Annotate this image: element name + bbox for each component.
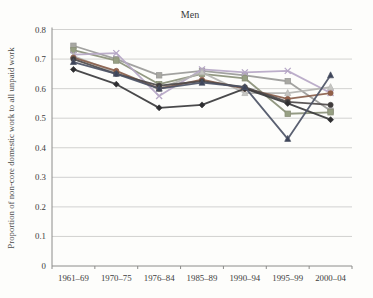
- data-point-square: [156, 73, 161, 78]
- x-tick-label: 1990–94: [229, 273, 260, 283]
- y-tick-labels: 00.10.20.30.40.50.60.70.8: [35, 25, 47, 272]
- data-point-diamond: [328, 117, 334, 123]
- y-tick-label: 0.1: [35, 231, 46, 241]
- x-tick-label: 1985–89: [187, 273, 218, 283]
- x-tick-label: 2000–04: [315, 273, 346, 283]
- y-tick-label: 0.7: [35, 54, 47, 64]
- y-tick-label: 0.2: [35, 202, 46, 212]
- chart-title: Men: [181, 9, 199, 20]
- x-tick-label: 1995–99: [272, 273, 303, 283]
- y-tick-label: 0.8: [35, 25, 47, 35]
- data-point-square: [285, 79, 290, 84]
- y-tick-label: 0.4: [35, 143, 47, 153]
- data-point-x: [156, 93, 162, 99]
- y-tick-label: 0.6: [35, 84, 47, 94]
- y-tick-label: 0: [42, 261, 47, 271]
- x-tick-label: 1970–75: [101, 273, 132, 283]
- x-tick-labels: 1961–691970–751976–841985–891990–941995–…: [58, 273, 347, 283]
- x-tick-label: 1976–84: [144, 273, 175, 283]
- data-point-square: [285, 111, 290, 116]
- data-point-triangle: [328, 72, 334, 78]
- data-series: [70, 43, 333, 141]
- y-tick-label: 0.5: [35, 113, 47, 123]
- data-point-diamond: [199, 102, 205, 108]
- chart: Men Proportion of non-core domestic work…: [0, 0, 373, 298]
- chart-canvas: Men Proportion of non-core domestic work…: [0, 0, 373, 298]
- y-tick-label: 0.3: [35, 172, 47, 182]
- x-tick-label: 1961–69: [58, 273, 89, 283]
- axes: [52, 28, 352, 270]
- series-brown-circle: [71, 55, 333, 102]
- data-point-square: [114, 58, 119, 63]
- data-point-square: [328, 110, 333, 115]
- y-axis-label: Proportion of non-core domestic work to …: [6, 47, 16, 249]
- data-point-diamond: [70, 66, 76, 72]
- data-point-square: [242, 76, 247, 81]
- data-point-circle: [328, 102, 333, 107]
- gridlines: [52, 30, 352, 237]
- data-point-circle: [328, 90, 333, 95]
